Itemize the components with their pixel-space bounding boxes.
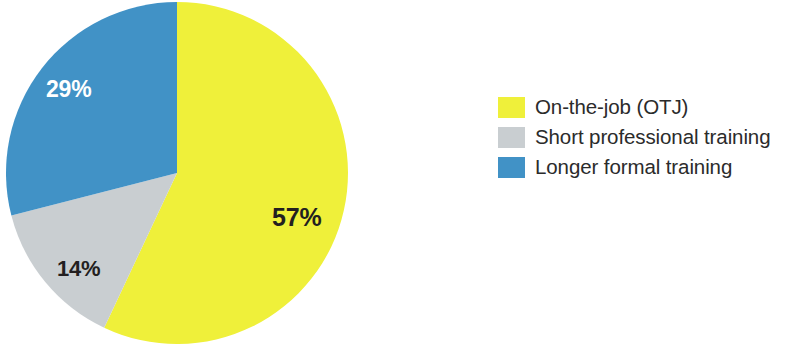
pie-chart-svg	[0, 0, 400, 353]
legend-swatch-on-the-job	[498, 97, 525, 118]
legend-label-on-the-job: On-the-job (OTJ)	[535, 95, 688, 119]
pie-slice-label-on-the-job: 57%	[272, 203, 321, 232]
legend-label-longer-formal-training: Longer formal training	[535, 155, 732, 179]
legend-label-short-professional-training: Short professional training	[535, 125, 770, 149]
pie-slice-label-longer-formal-training: 29%	[46, 76, 91, 103]
legend-swatch-short-professional-training	[498, 127, 525, 148]
legend-item-short-professional-training[interactable]: Short professional training	[498, 122, 793, 152]
pie-chart-figure: 57% 14% 29% On-the-job (OTJ) Short profe…	[0, 0, 793, 353]
pie-slice-label-short-professional-training: 14%	[57, 256, 100, 282]
pie-chart-plot-area: 57% 14% 29%	[0, 0, 400, 353]
legend-item-longer-formal-training[interactable]: Longer formal training	[498, 152, 793, 182]
legend-item-on-the-job[interactable]: On-the-job (OTJ)	[498, 92, 793, 122]
legend-swatch-longer-formal-training	[498, 157, 525, 178]
chart-legend: On-the-job (OTJ) Short professional trai…	[498, 92, 793, 182]
pie-slice-group	[6, 2, 348, 344]
